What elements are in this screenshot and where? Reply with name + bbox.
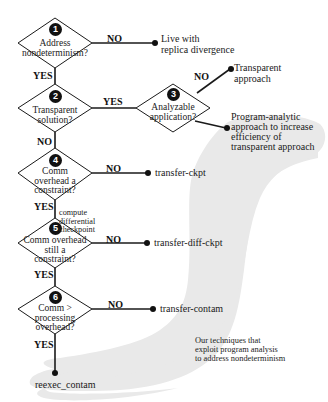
- outcome-line: approach: [234, 74, 281, 85]
- decision-5-question: Comm overhead still a constraint?: [14, 236, 96, 265]
- edge-label-d6-no: NO: [108, 300, 123, 310]
- edge-label-d6-yes: YES: [34, 340, 53, 350]
- decision-2-number: 2: [49, 90, 62, 103]
- decision-4-question: Comm overhead a constraint?: [18, 167, 92, 196]
- outcome-line: Live with: [161, 34, 234, 45]
- edge-label-d2-no: NO: [37, 137, 52, 147]
- question-line: application?: [136, 113, 210, 123]
- outcome-line: replica divergence: [161, 45, 234, 56]
- edge-label-d3-no: NO: [194, 72, 209, 82]
- outcome-transfer-diff-ckpt: transfer-diff-ckpt: [154, 238, 222, 248]
- caption-line: to address nondeterminism: [195, 355, 285, 364]
- outcome-line: Transparent: [234, 63, 281, 74]
- note-line: checkpoint: [59, 226, 95, 235]
- edge-label-d5-yes: YES: [34, 270, 53, 280]
- decision-3-question: Analyzable application?: [136, 103, 210, 122]
- edge-label-d4-no: NO: [106, 164, 121, 174]
- outcome-line: transparent approach: [231, 142, 315, 152]
- edge-label-d1-yes: YES: [33, 71, 52, 81]
- decision-2-question: Transparent solution?: [18, 106, 92, 125]
- decision-6-question: Comm > processing overhead?: [18, 304, 92, 333]
- decision-1-number: 1: [49, 23, 62, 36]
- outcome-live-with-divergence: Live with replica divergence: [161, 34, 234, 55]
- outcome-transparent-approach: Transparent approach: [234, 63, 281, 84]
- differential-checkpoint-note: compute differential checkpoint: [59, 209, 95, 235]
- outcome-program-analytic: Program-analytic approach to increase ef…: [231, 112, 315, 152]
- outcome-reexec-contam: reexec_contam: [35, 380, 96, 390]
- outcome-transfer-contam: transfer-contam: [160, 304, 223, 314]
- decision-1-question: Address nondeterminism?: [18, 39, 92, 58]
- question-line: solution?: [18, 116, 92, 126]
- edge-label-d2-yes: YES: [103, 97, 122, 107]
- edge-label-d1-no: NO: [107, 34, 122, 44]
- region-caption: Our techniques that exploit program anal…: [195, 337, 285, 363]
- question-line: constraint?: [14, 255, 96, 265]
- edge-label-d4-yes: YES: [34, 202, 53, 212]
- edge-label-d5-no: NO: [106, 235, 121, 245]
- question-line: constraint?: [18, 186, 92, 196]
- outcome-transfer-ckpt: transfer-ckpt: [155, 168, 206, 178]
- question-line: nondeterminism?: [18, 49, 92, 59]
- decision-3-number: 3: [167, 88, 180, 101]
- question-line: overhead?: [18, 323, 92, 333]
